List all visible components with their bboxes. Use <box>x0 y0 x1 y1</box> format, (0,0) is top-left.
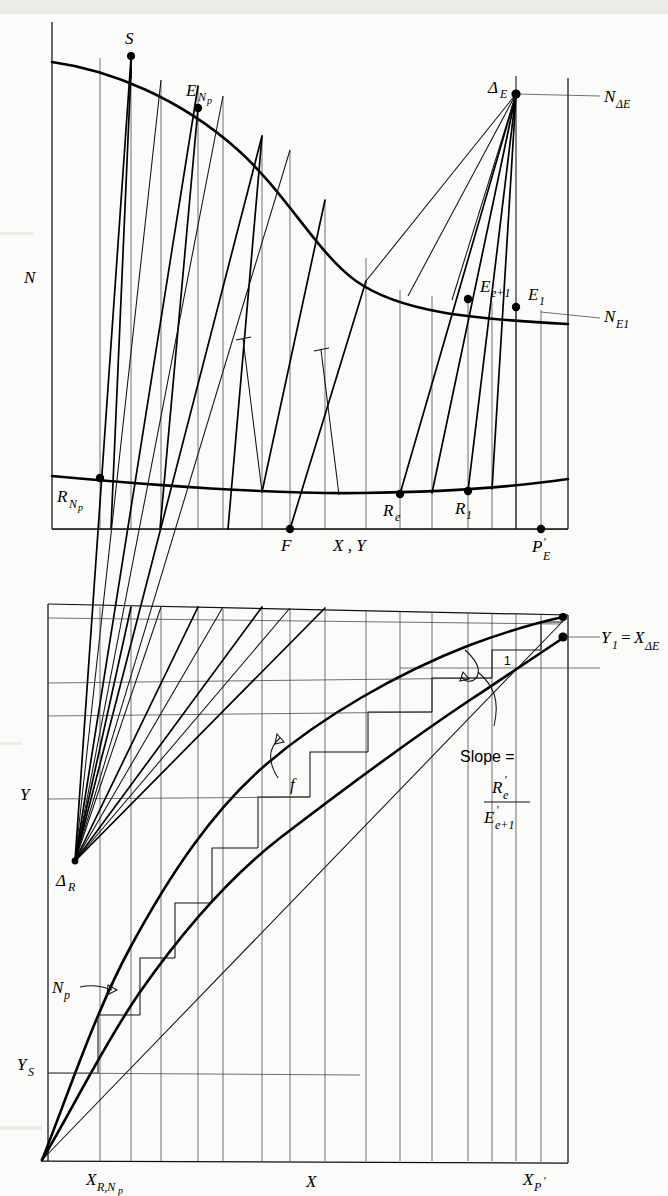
lower-y-axis-label: Y <box>20 785 31 804</box>
delta-R-operating-lines-lower <box>75 607 325 861</box>
svg-text:Δ: Δ <box>55 871 66 890</box>
svg-text:′: ′ <box>543 1174 546 1188</box>
label-Y-S: Y S <box>17 1055 34 1079</box>
point-R-1 <box>464 487 472 495</box>
svg-text:e+1: e+1 <box>491 286 510 300</box>
label-X-R-Np: X R,N p <box>85 1170 123 1196</box>
tie-lines <box>111 70 366 529</box>
svg-text:S: S <box>28 1065 34 1079</box>
svg-text:X: X <box>85 1170 97 1189</box>
point-top-right <box>559 613 567 621</box>
point-E-e1 <box>464 295 472 303</box>
label-Y1-equals-X-deltaE: Y 1 = X ΔE <box>601 628 660 653</box>
slope-leader <box>460 650 496 726</box>
point-E-Np <box>194 104 202 112</box>
svg-text:′: ′ <box>543 535 546 549</box>
svg-text:N: N <box>603 87 617 106</box>
lower-x-axis-label: X <box>305 1172 317 1191</box>
upper-x-axis-label: X , Y <box>332 536 367 555</box>
point-F <box>286 525 294 533</box>
svg-text:′: ′ <box>504 773 507 787</box>
label-E-e-plus-1: E e+1 <box>479 277 510 300</box>
label-f: f <box>290 775 297 794</box>
svg-text:E1: E1 <box>615 317 629 331</box>
lower-panel <box>41 604 600 1163</box>
operating-curve <box>42 638 563 1160</box>
label-R-1: R 1 <box>454 499 472 522</box>
label-N-deltaE: N ΔE <box>603 87 631 111</box>
svg-text:1: 1 <box>539 294 545 308</box>
label-F: F <box>280 536 292 555</box>
point-delta-E <box>511 89 520 98</box>
extraction-diagram-svg: N X , Y S E N p Δ E N ΔE E e+1 E 1 N E1 … <box>0 0 668 1196</box>
svg-text:p: p <box>206 95 212 106</box>
svg-text:Y: Y <box>601 628 612 647</box>
upper-y-axis-label: N <box>23 268 37 287</box>
tie-line-stubs <box>236 337 339 495</box>
label-X-P-E-prime: X P ′ <box>522 1170 546 1194</box>
svg-text:E: E <box>542 549 551 563</box>
N-deltaE-tick <box>516 94 600 96</box>
svg-text:R: R <box>67 880 76 894</box>
svg-text:P: P <box>533 1180 542 1194</box>
svg-text:R: R <box>454 499 466 518</box>
svg-text:E: E <box>185 81 197 100</box>
label-P-E-prime: P ′ E <box>531 535 551 563</box>
upper-panel <box>52 22 600 861</box>
svg-text:′: ′ <box>496 803 499 817</box>
label-delta-R: Δ R <box>55 871 76 894</box>
svg-text:R,N: R,N <box>96 1180 116 1194</box>
svg-text:N: N <box>603 307 617 326</box>
figure-canvas: N X , Y S E N p Δ E N ΔE E e+1 E 1 N E1 … <box>0 0 668 1196</box>
svg-text:N: N <box>51 978 65 997</box>
Np-label-arrow <box>80 985 117 995</box>
svg-text:E: E <box>499 87 508 101</box>
label-N-p: N p <box>51 978 70 1002</box>
svg-text:Y: Y <box>17 1055 28 1074</box>
svg-text:R: R <box>382 501 394 520</box>
upper-panel-points <box>96 52 545 533</box>
point-S <box>127 52 135 60</box>
label-E-Np: E N p <box>185 81 212 106</box>
slope-annotation: Slope = R e ′ E e+1 ′ <box>460 748 530 832</box>
svg-text:E: E <box>483 808 495 827</box>
svg-text:X: X <box>633 628 645 647</box>
svg-text:R: R <box>56 487 68 506</box>
svg-text:e+1: e+1 <box>495 818 514 832</box>
point-P-E <box>537 525 545 533</box>
svg-text:X: X <box>522 1170 534 1189</box>
svg-text:1: 1 <box>612 638 618 652</box>
svg-text:Δ: Δ <box>487 78 498 97</box>
svg-text:p: p <box>117 1185 123 1196</box>
point-E-1 <box>512 303 520 311</box>
svg-text:1: 1 <box>466 508 472 522</box>
point-R-e <box>396 490 404 498</box>
point-R-Np <box>96 474 104 482</box>
point-delta-R <box>72 858 79 865</box>
label-delta-E: Δ E <box>487 78 508 101</box>
forty-five-degree-line <box>42 620 564 1160</box>
svg-text:E: E <box>527 285 539 304</box>
svg-text:E: E <box>479 277 491 296</box>
svg-text:N: N <box>68 497 78 511</box>
svg-text:ΔE: ΔE <box>644 639 660 653</box>
label-S: S <box>125 29 134 48</box>
label-R-Np: R N p <box>56 487 83 513</box>
N-E1-tick <box>541 312 600 318</box>
svg-text:e: e <box>395 510 401 524</box>
label-E-1: E 1 <box>527 285 545 308</box>
svg-text:R: R <box>491 778 503 797</box>
svg-text:p: p <box>63 988 70 1002</box>
label-R-e: R e <box>382 501 401 524</box>
raffinate-layer-curve <box>52 476 568 493</box>
label-stage-1: 1 <box>504 654 511 668</box>
svg-text:N: N <box>197 90 207 104</box>
svg-text:ΔE: ΔE <box>615 97 631 111</box>
svg-text:e: e <box>503 788 509 802</box>
svg-text:p: p <box>77 502 83 513</box>
slope-text: Slope = <box>460 748 515 765</box>
svg-text:P: P <box>531 537 542 556</box>
svg-text:=: = <box>620 628 631 647</box>
label-N-E1: N E1 <box>603 307 629 331</box>
